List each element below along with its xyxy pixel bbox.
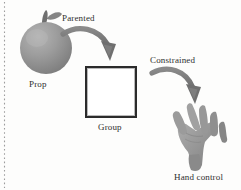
node-label-hand-control: Hand control <box>174 173 223 182</box>
prop-highlight-icon <box>26 29 48 47</box>
group-square-node <box>85 66 137 118</box>
arrow-constrained <box>152 69 201 104</box>
connection-label-parented: Parented <box>62 14 95 23</box>
hand-control-node <box>173 103 227 171</box>
hand-thumb-icon <box>173 111 187 134</box>
prop-body-icon <box>20 22 72 74</box>
node-label-prop: Prop <box>29 80 47 89</box>
node-label-group: Group <box>98 123 122 132</box>
prop-leaf-icon <box>47 12 62 19</box>
hand-finger-4-icon <box>219 122 227 143</box>
figure-canvas: Parented Prop Group Constrained Hand con… <box>0 0 241 190</box>
connection-label-constrained: Constrained <box>150 56 195 65</box>
hand-finger-3-icon <box>210 112 218 137</box>
group-square-bevel <box>87 68 135 116</box>
hand-wrist-icon <box>189 154 201 171</box>
